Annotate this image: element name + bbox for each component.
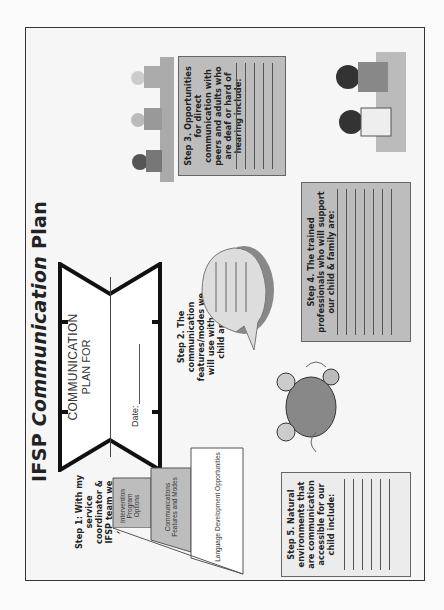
playing-children-clipart	[256, 352, 356, 462]
professionals-clipart	[326, 42, 411, 162]
pyramid-tier-1: Intervention Program Options	[119, 484, 140, 528]
document-page: IFSP Communication Plan COMMUNICATION PL…	[25, 27, 425, 581]
step4-box: Step 4. The trained professionals who wi…	[301, 182, 411, 342]
pyramid-tier-3: Language Development Opportunities	[214, 452, 221, 562]
step5-write-lines[interactable]	[344, 479, 398, 570]
banner-title: COMMUNICATION PLAN FOR	[66, 292, 92, 442]
step5-box: Step 5. Natural environments that are co…	[281, 472, 411, 577]
rotated-landscape-content: IFSP Communication Plan COMMUNICATION PL…	[26, 28, 426, 582]
title-prefix: IFSP	[28, 426, 50, 482]
step5-text: Step 5. Natural environments that are co…	[282, 473, 340, 576]
pyramid-tier-2: Communications Features and Modes	[164, 472, 178, 542]
banner-line1: COMMUNICATION	[66, 292, 80, 442]
step3-box: Step 3. Opportunities for direct communi…	[178, 56, 286, 176]
page-title: IFSP Communication Plan	[28, 192, 50, 482]
step4-write-lines[interactable]	[337, 189, 400, 335]
speech-bubble-icon	[196, 242, 276, 352]
banner-line2: PLAN FOR	[80, 292, 92, 442]
people-at-table-clipart	[126, 57, 176, 182]
date-label: Date:	[130, 405, 140, 427]
date-line[interactable]	[139, 344, 140, 404]
step4-text: Step 4. The trained professionals who wi…	[302, 183, 340, 341]
step3-write-lines[interactable]	[236, 63, 281, 169]
title-emphasis: Communication	[28, 256, 50, 426]
title-suffix: Plan	[28, 201, 50, 256]
